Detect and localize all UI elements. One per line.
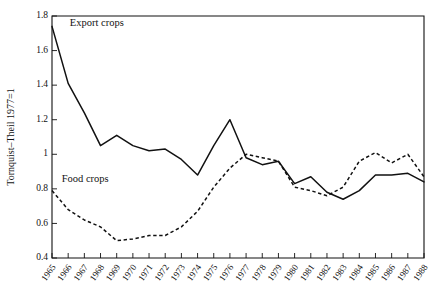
chart-container: Tornquist–Theil 1977=1 0.40.60.811.21.41…: [0, 0, 439, 302]
series-layer: [52, 26, 424, 240]
series-annotations: Export cropsFood crops: [62, 17, 124, 184]
x-tick-label: 1988: [411, 262, 430, 283]
y-tick-label: 1.4: [36, 79, 48, 89]
x-tick-label: 1983: [330, 262, 349, 283]
line-chart: Tornquist–Theil 1977=1 0.40.60.811.21.41…: [0, 0, 439, 302]
y-tick-label: 0.6: [36, 218, 48, 228]
y-tick-label: 1.6: [36, 45, 48, 55]
y-tick-label: 1.8: [36, 10, 48, 20]
series-label-export-crops: Export crops: [70, 17, 124, 28]
x-tick-label: 1985: [363, 262, 382, 283]
x-tick-label: 1984: [346, 262, 365, 283]
x-tick-label: 1982: [314, 262, 333, 282]
y-tick-label: 0.4: [36, 252, 48, 262]
y-axis-ticks: 0.40.60.811.21.41.61.8: [36, 10, 57, 262]
x-tick-label: 1967: [71, 262, 90, 283]
x-tick-label: 1981: [298, 262, 317, 282]
x-tick-label: 1978: [249, 262, 268, 283]
x-tick-label: 1975: [201, 262, 220, 283]
x-tick-label: 1970: [120, 262, 139, 283]
x-tick-label: 1979: [266, 262, 285, 283]
series-line-food-crops: [52, 153, 424, 241]
y-tick-label: 1: [43, 148, 48, 158]
series-label-food-crops: Food crops: [62, 173, 109, 184]
x-tick-label: 1973: [169, 262, 188, 283]
x-tick-label: 1977: [233, 262, 252, 283]
x-tick-label: 1980: [282, 262, 301, 283]
x-tick-label: 1974: [185, 262, 204, 283]
x-tick-label: 1971: [136, 262, 155, 282]
x-tick-label: 1965: [39, 262, 58, 283]
x-tick-label: 1986: [379, 262, 398, 283]
x-tick-label: 1987: [395, 262, 414, 283]
x-tick-label: 1966: [55, 262, 74, 283]
x-tick-label: 1968: [88, 262, 107, 283]
y-tick-label: 1.2: [36, 114, 48, 124]
y-axis-label: Tornquist–Theil 1977=1: [5, 88, 16, 185]
x-tick-label: 1972: [152, 262, 171, 282]
y-tick-label: 0.8: [36, 183, 48, 193]
x-tick-label: 1969: [104, 262, 123, 283]
y-axis-title: Tornquist–Theil 1977=1: [5, 88, 16, 185]
x-tick-label: 1976: [217, 262, 236, 283]
